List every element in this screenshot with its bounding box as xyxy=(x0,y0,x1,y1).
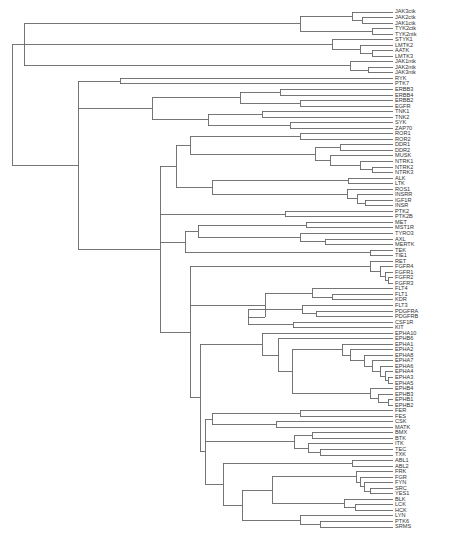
tree-branches xyxy=(12,12,393,527)
leaf-labels: JAK3ctkJAK2ctkJAK1ctkTYK2ctkTYK2ntkSTYK1… xyxy=(395,8,419,529)
kinase-dendrogram: JAK3ctkJAK2ctkJAK1ctkTYK2ctkTYK2ntkSTYK1… xyxy=(0,0,452,541)
leaf-label: SRMS xyxy=(395,523,411,529)
